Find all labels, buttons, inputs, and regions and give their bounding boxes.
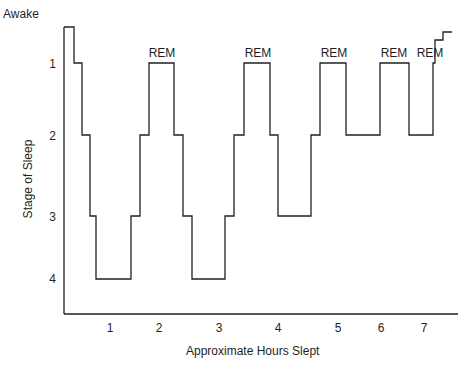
y-axis-label: Stage of Sleep bbox=[21, 129, 35, 229]
rem-label-5: REM bbox=[410, 47, 450, 59]
rem-label-3: REM bbox=[314, 47, 354, 59]
x-tick-2: 2 bbox=[149, 322, 169, 334]
x-tick-4: 4 bbox=[268, 322, 288, 334]
y-tick-3: 3 bbox=[36, 211, 56, 223]
y-tick-1: 1 bbox=[36, 58, 56, 70]
x-tick-5: 5 bbox=[328, 322, 348, 334]
x-axis-label: Approximate Hours Slept bbox=[186, 345, 319, 357]
y-tick-4: 4 bbox=[36, 273, 56, 285]
x-tick-7: 7 bbox=[414, 322, 434, 334]
rem-label-4: REM bbox=[374, 47, 414, 59]
y-tick-2: 2 bbox=[36, 130, 56, 142]
x-tick-1: 1 bbox=[100, 322, 120, 334]
rem-label-1: REM bbox=[142, 47, 182, 59]
rem-label-2: REM bbox=[238, 47, 278, 59]
x-tick-3: 3 bbox=[209, 322, 229, 334]
y-tick-awake: Awake bbox=[3, 8, 39, 20]
sleep-stage-line bbox=[64, 27, 452, 279]
x-tick-6: 6 bbox=[371, 322, 391, 334]
